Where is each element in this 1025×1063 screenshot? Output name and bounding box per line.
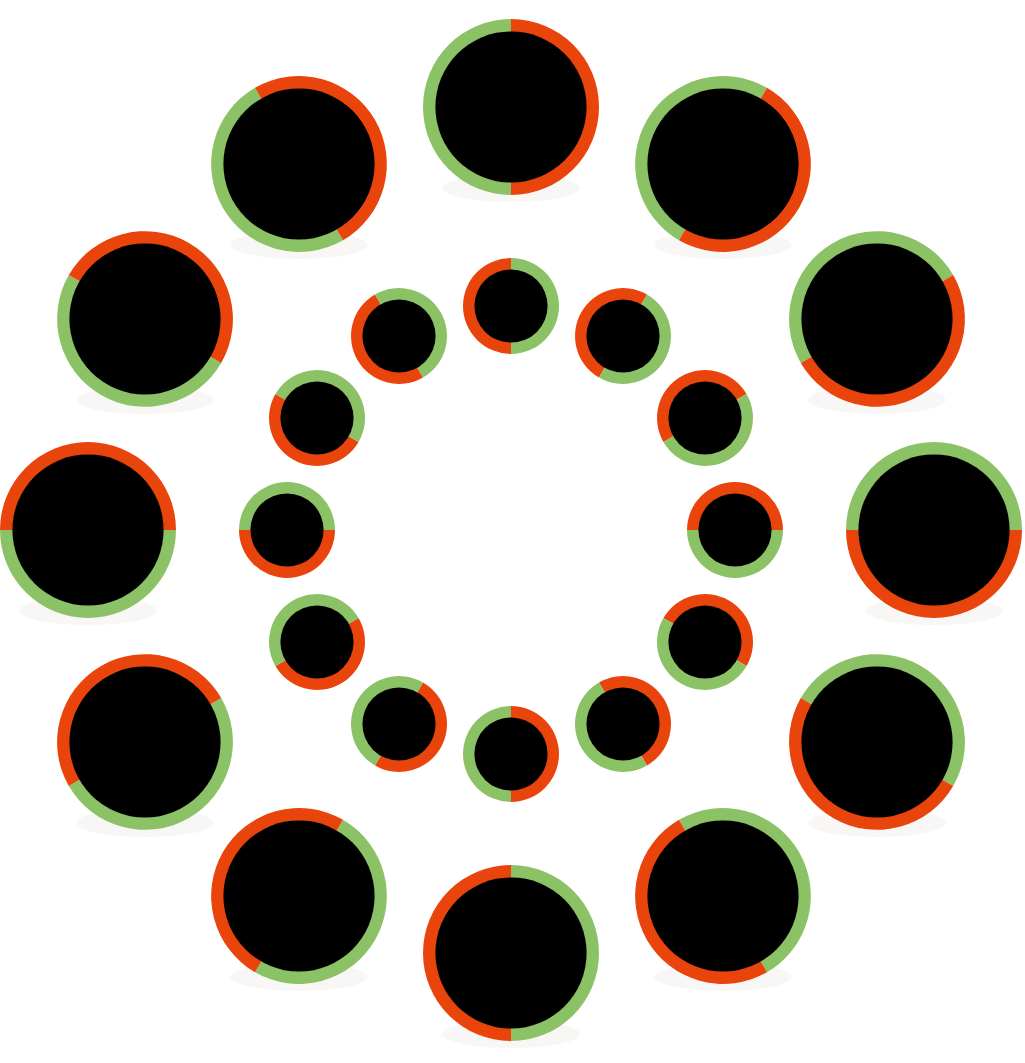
disc-core: [647, 820, 798, 971]
rotating-circles-figure: [0, 0, 1025, 1063]
disc-core: [801, 243, 952, 394]
disc-core: [474, 269, 547, 342]
disc-core: [474, 717, 547, 790]
inner-ring-disc-6: [463, 706, 559, 802]
disc-core: [280, 605, 353, 678]
disc-core: [858, 454, 1009, 605]
outer-ring-disc-0: [423, 19, 599, 195]
disc-core: [280, 381, 353, 454]
disc-core: [362, 687, 435, 760]
disc-core: [250, 493, 323, 566]
inner-ring-disc-8: [269, 594, 365, 690]
disc-core: [435, 31, 586, 182]
disc-core: [698, 493, 771, 566]
disc-core: [12, 454, 163, 605]
figure-svg: [0, 0, 1025, 1063]
outer-ring-disc-10: [57, 231, 233, 407]
inner-ring-disc-1: [575, 288, 671, 384]
inner-ring-disc-7: [351, 676, 447, 772]
inner-ring-disc-10: [269, 370, 365, 466]
outer-ring-disc-5: [635, 808, 811, 984]
disc-core: [69, 666, 220, 817]
outer-ring-disc-4: [789, 654, 965, 830]
disc-core: [586, 687, 659, 760]
disc-core: [801, 666, 952, 817]
disc-core: [223, 88, 374, 239]
outer-ring-disc-11: [211, 76, 387, 252]
outer-ring-disc-1: [635, 76, 811, 252]
inner-ring-disc-2: [657, 370, 753, 466]
disc-core: [435, 877, 586, 1028]
disc-core: [668, 605, 741, 678]
illusion-canvas: [0, 0, 1025, 1063]
inner-ring-disc-5: [575, 676, 671, 772]
disc-core: [647, 88, 798, 239]
disc-core: [586, 299, 659, 372]
outer-ring-disc-3: [846, 442, 1022, 618]
inner-ring-disc-11: [351, 288, 447, 384]
outer-ring-disc-8: [57, 654, 233, 830]
disc-core: [668, 381, 741, 454]
outer-ring-disc-9: [0, 442, 176, 618]
inner-ring-disc-3: [687, 482, 783, 578]
outer-ring-disc-6: [423, 865, 599, 1041]
disc-core: [69, 243, 220, 394]
inner-ring-disc-0: [463, 258, 559, 354]
outer-ring-disc-7: [211, 808, 387, 984]
inner-ring-disc-4: [657, 594, 753, 690]
disc-core: [362, 299, 435, 372]
outer-ring-disc-2: [789, 231, 965, 407]
inner-ring-disc-9: [239, 482, 335, 578]
disc-core: [223, 820, 374, 971]
